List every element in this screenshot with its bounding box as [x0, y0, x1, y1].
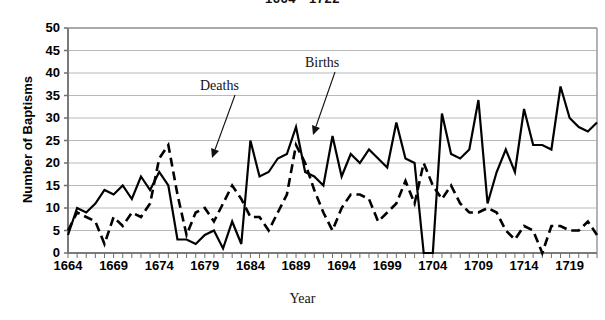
arrow-head — [312, 125, 320, 135]
x-axis-title: Year — [0, 291, 605, 307]
arrow-head — [211, 148, 219, 158]
data-series — [68, 87, 597, 254]
annotation-births: Births — [305, 55, 339, 71]
arrow-shaft — [215, 95, 235, 150]
chart-figure: 1664 - 1722 Number of Baptisms 504540353… — [0, 0, 605, 320]
annotation-deaths: Deaths — [200, 78, 239, 94]
plot-area — [0, 0, 605, 320]
series-line-deaths — [68, 145, 597, 253]
